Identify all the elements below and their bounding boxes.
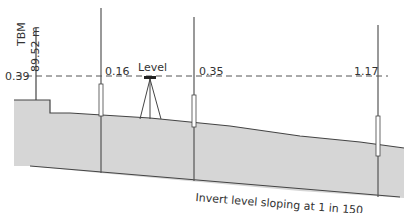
peg-1 — [99, 84, 103, 116]
reading-1: 0.16 — [105, 66, 130, 77]
level-instrument-icon — [140, 76, 161, 119]
level-label: Level — [138, 62, 167, 73]
tbm-value: 89.52 m — [30, 26, 41, 72]
ground-section — [14, 100, 404, 198]
peg-2 — [192, 95, 196, 127]
peg-3 — [376, 116, 380, 156]
levelling-diagram — [0, 0, 410, 213]
tbm-label: TBM — [16, 22, 27, 46]
reading-3: 1.17 — [354, 66, 379, 77]
reading-backsight: 0.39 — [5, 71, 30, 82]
reading-2: 0.35 — [199, 66, 224, 77]
